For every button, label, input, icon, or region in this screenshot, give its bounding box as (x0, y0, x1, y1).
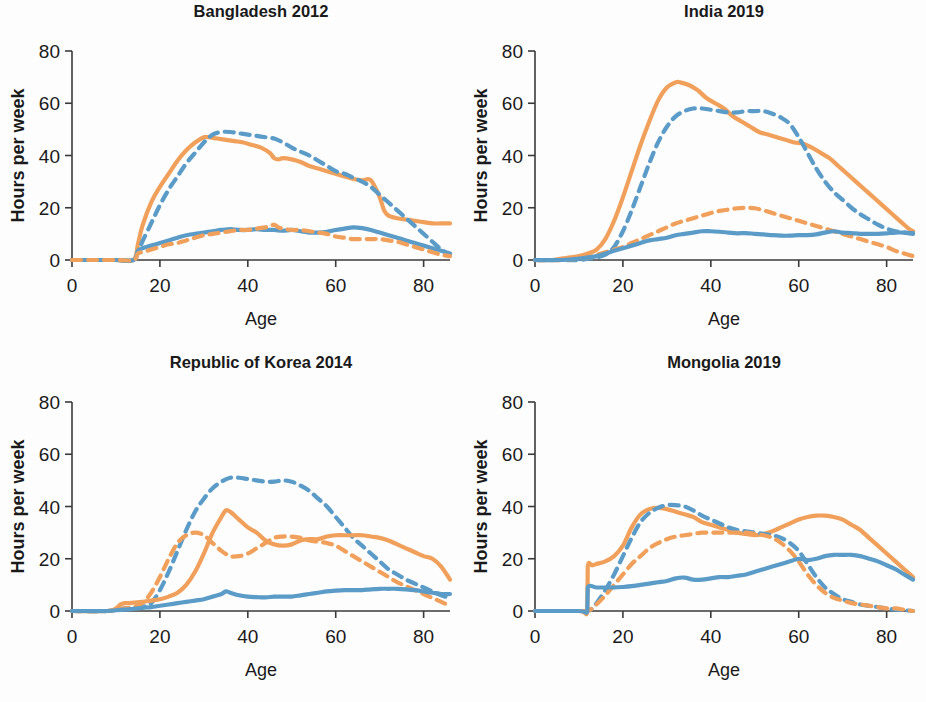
x-tick-label: 40 (700, 275, 721, 296)
y-tick-label: 20 (39, 549, 60, 570)
panel-title: Republic of Korea 2014 (170, 353, 353, 371)
y-tick-label: 80 (39, 41, 60, 62)
chart-group: Bangladesh 2012020406080020406080AgeHour… (8, 2, 450, 329)
x-tick-label: 80 (413, 626, 434, 647)
panel-mongolia: Mongolia 2019020406080020406080AgeHours … (463, 351, 926, 702)
y-tick-label: 80 (502, 392, 523, 413)
chart-group: Republic of Korea 2014020406080020406080… (8, 353, 450, 680)
x-tick-label: 80 (876, 626, 897, 647)
series-line-blue-solid (72, 589, 450, 611)
x-tick-label: 80 (876, 275, 897, 296)
y-tick-label: 40 (39, 497, 60, 518)
x-tick-label: 0 (530, 626, 541, 647)
panel-title: Mongolia 2019 (667, 353, 781, 371)
y-tick-label: 40 (39, 146, 60, 167)
x-tick-label: 20 (612, 626, 633, 647)
chart-svg-republic-of-korea: Republic of Korea 2014020406080020406080… (0, 351, 463, 702)
y-tick-label: 60 (39, 444, 60, 465)
x-tick-label: 20 (149, 626, 170, 647)
y-tick-label: 40 (502, 146, 523, 167)
series-line-blue-solid (535, 231, 913, 260)
y-tick-label: 20 (502, 198, 523, 219)
y-tick-label: 0 (512, 601, 523, 622)
x-tick-label: 0 (530, 275, 541, 296)
y-tick-label: 20 (502, 549, 523, 570)
figure-container: Bangladesh 2012020406080020406080AgeHour… (0, 0, 926, 702)
panel-bangladesh: Bangladesh 2012020406080020406080AgeHour… (0, 0, 463, 351)
x-tick-label: 60 (325, 626, 346, 647)
x-tick-label: 40 (237, 275, 258, 296)
series-line-blue-dashed (535, 505, 913, 611)
x-tick-label: 80 (413, 275, 434, 296)
chart-group: India 2019020406080020406080AgeHours per… (471, 2, 913, 329)
y-tick-label: 60 (502, 444, 523, 465)
y-tick-label: 40 (502, 497, 523, 518)
y-axis-title: Hours per week (471, 87, 491, 222)
x-tick-label: 40 (237, 626, 258, 647)
chart-svg-mongolia: Mongolia 2019020406080020406080AgeHours … (463, 351, 926, 702)
x-tick-label: 0 (67, 275, 78, 296)
panel-india: India 2019020406080020406080AgeHours per… (463, 0, 926, 351)
y-tick-label: 80 (39, 392, 60, 413)
panel-title: India 2019 (684, 2, 764, 20)
series-line-orange-dashed (535, 533, 913, 612)
x-axis-title: Age (708, 309, 740, 329)
x-tick-label: 20 (149, 275, 170, 296)
y-tick-label: 20 (39, 198, 60, 219)
x-axis-title: Age (708, 660, 740, 680)
chart-svg-india: India 2019020406080020406080AgeHours per… (463, 0, 926, 351)
x-axis-title: Age (245, 309, 277, 329)
x-tick-label: 20 (612, 275, 633, 296)
x-tick-label: 60 (788, 626, 809, 647)
x-tick-label: 60 (325, 275, 346, 296)
panel-title: Bangladesh 2012 (194, 2, 329, 20)
y-tick-label: 60 (502, 93, 523, 114)
x-tick-label: 60 (788, 275, 809, 296)
series-line-orange-dashed (72, 225, 450, 261)
series-line-blue-solid (72, 227, 450, 260)
y-axis-title: Hours per week (8, 87, 28, 222)
y-axis-title: Hours per week (471, 438, 491, 573)
y-tick-label: 0 (49, 250, 60, 271)
y-tick-label: 80 (502, 41, 523, 62)
series-line-orange-solid (72, 137, 450, 261)
chart-group: Mongolia 2019020406080020406080AgeHours … (471, 353, 913, 680)
x-axis-title: Age (245, 660, 277, 680)
x-tick-label: 0 (67, 626, 78, 647)
x-tick-label: 40 (700, 626, 721, 647)
y-axis-title: Hours per week (8, 438, 28, 573)
chart-svg-bangladesh: Bangladesh 2012020406080020406080AgeHour… (0, 0, 463, 351)
y-tick-label: 60 (39, 93, 60, 114)
y-tick-label: 0 (49, 601, 60, 622)
panel-republic-of-korea: Republic of Korea 2014020406080020406080… (0, 351, 463, 702)
y-tick-label: 0 (512, 250, 523, 271)
